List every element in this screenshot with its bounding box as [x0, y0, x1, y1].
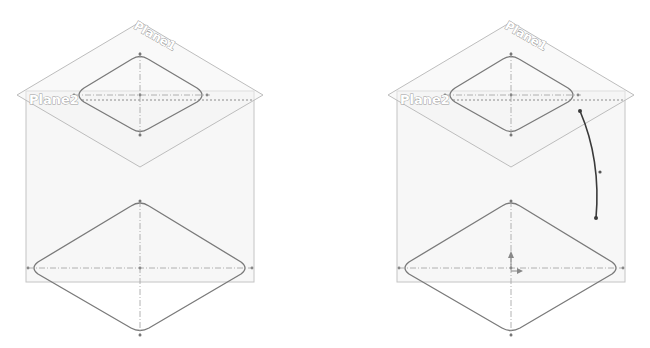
- path-end-point: [594, 216, 598, 220]
- path-mid-point: [598, 170, 601, 173]
- plane2-label: Plane2: [29, 92, 79, 107]
- view-left: Plane1 Plane2: [17, 18, 263, 336]
- view-right: Plane1 Plane2: [388, 18, 634, 336]
- path-start-point: [578, 109, 582, 113]
- plane2-label: Plane2: [400, 92, 450, 107]
- sweep-diagram: Plane1 Plane2 Plane1 Plane2: [0, 0, 650, 348]
